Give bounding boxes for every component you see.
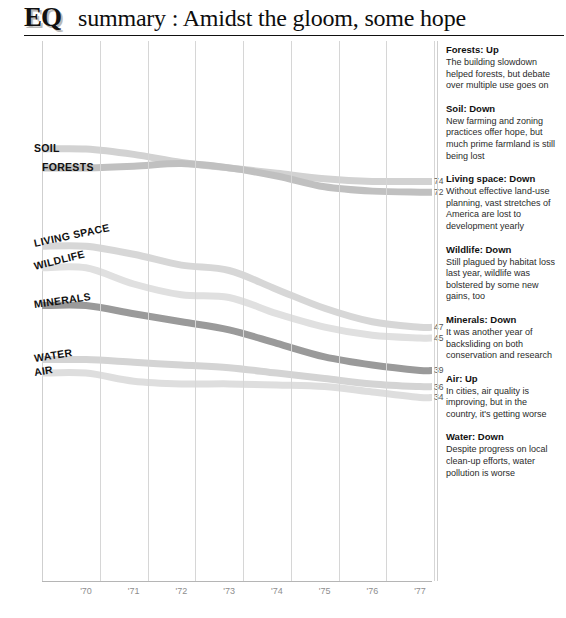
- note-heading: Minerals: Down: [446, 314, 560, 326]
- x-tick-label: '71: [128, 586, 140, 596]
- series-end-value-living-space: 47: [434, 322, 443, 332]
- eq-logo: EQ: [24, 4, 61, 31]
- note-body: Without effective land-use planning, vas…: [446, 186, 560, 232]
- x-tick-label: '70: [80, 586, 92, 596]
- note-heading: Air: Up: [446, 373, 560, 385]
- series-end-value-water: 36: [434, 382, 443, 392]
- series-label-forests: FORESTS: [42, 161, 94, 173]
- title-divider: [24, 35, 564, 36]
- note-heading: Wildlife: Down: [446, 244, 560, 256]
- note-body: In cities, air quality is improving, but…: [446, 386, 560, 421]
- note-body: New farming and zoning practices offer h…: [446, 116, 560, 162]
- panel-divider: [437, 41, 438, 581]
- note-item: Living space: DownWithout effective land…: [446, 173, 560, 232]
- x-tick-label: '74: [271, 586, 283, 596]
- note-item: Wildlife: DownStill plagued by habitat l…: [446, 244, 560, 303]
- x-axis-ticks: '70'71'72'73'74'75'76'77: [42, 586, 432, 600]
- note-body: Still plagued by habitat loss last year,…: [446, 257, 560, 303]
- note-heading: Forests: Up: [446, 44, 560, 56]
- series-end-value-minerals: 39: [434, 365, 443, 375]
- notes-panel: Forests: UpThe building slowdown helped …: [446, 44, 560, 490]
- grid-line-vertical: [386, 41, 387, 581]
- chart-plot-area: SOILFORESTSLIVING SPACEWILDLIFEMINERALSW…: [42, 41, 432, 581]
- grid-line-vertical: [148, 41, 149, 581]
- x-tick-label: '73: [223, 586, 235, 596]
- series-label-soil: SOIL: [34, 142, 60, 154]
- note-item: Minerals: DownIt was another year of bac…: [446, 314, 560, 362]
- x-tick-label: '72: [176, 586, 188, 596]
- note-item: Water: DownDespite progress on local cle…: [446, 431, 560, 479]
- x-tick-label: '75: [319, 586, 331, 596]
- series-end-value-soil: 74: [434, 176, 443, 186]
- series-end-value-air: 34: [434, 392, 443, 402]
- note-body: It was another year of backsliding on bo…: [446, 327, 560, 362]
- x-axis-line: [42, 581, 432, 582]
- page-title: summary : Amidst the gloom, some hope: [78, 5, 466, 32]
- note-item: Soil: DownNew farming and zoning practic…: [446, 103, 560, 162]
- x-tick-label: '77: [414, 586, 426, 596]
- series-label-air: AIR: [33, 363, 54, 378]
- grid-line-vertical: [100, 41, 101, 581]
- note-item: Air: UpIn cities, air quality is improvi…: [446, 373, 560, 421]
- note-item: Forests: UpThe building slowdown helped …: [446, 44, 560, 92]
- series-end-value-forests: 72: [434, 187, 443, 197]
- note-body: Despite progress on local clean-up effor…: [446, 444, 560, 479]
- note-body: The building slowdown helped forests, bu…: [446, 57, 560, 92]
- grid-line-vertical: [195, 41, 196, 581]
- x-tick-label: '76: [366, 586, 378, 596]
- title-bar: EQ summary : Amidst the gloom, some hope: [0, 0, 566, 34]
- series-end-value-wildlife: 45: [434, 333, 443, 343]
- grid-line-vertical: [243, 41, 244, 581]
- note-heading: Water: Down: [446, 431, 560, 443]
- grid-line-vertical: [291, 41, 292, 581]
- grid-line-vertical: [339, 41, 340, 581]
- note-heading: Living space: Down: [446, 173, 560, 185]
- grid-line-vertical: [434, 41, 435, 581]
- note-heading: Soil: Down: [446, 103, 560, 115]
